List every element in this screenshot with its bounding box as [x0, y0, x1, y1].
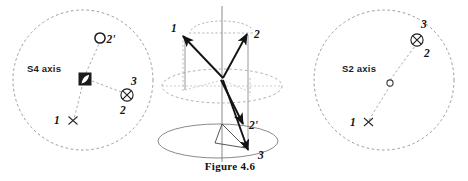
vector-arrows	[183, 34, 248, 150]
right-stereogram-svg: S2 axis 3 2 1	[300, 0, 468, 160]
s4-axis-label: S4 axis	[27, 63, 61, 74]
vector-label-1: 1	[171, 22, 177, 34]
figure-caption: Figure 4.6	[0, 160, 468, 172]
tri-leg-left	[215, 124, 222, 143]
connector-to-3	[92, 81, 124, 93]
s2-axis-label: S2 axis	[342, 63, 376, 74]
left-stereogram-panel: S4 axis 2' 3 2 1	[0, 0, 160, 160]
cross-x-marker-1	[364, 118, 373, 126]
point-label-3: 3	[130, 75, 137, 87]
vector-label-2prime: 2'	[248, 119, 258, 131]
projection-circle	[314, 10, 454, 150]
point-label-1: 1	[54, 114, 60, 126]
vector-label-2: 2	[253, 28, 260, 40]
below-plane-marker-2-3	[121, 89, 133, 101]
point-label-3: 3	[420, 18, 427, 30]
above-plane-marker-2prime	[95, 33, 105, 43]
connector-to-1	[74, 87, 82, 119]
s2-axis-symbol	[387, 80, 393, 86]
s4-axis-symbol	[79, 73, 92, 86]
point-label-2prime: 2'	[106, 33, 116, 45]
figure-caption-text: Figure 4.6	[205, 160, 255, 172]
connector-to-2prime	[86, 44, 99, 73]
marker-2-3	[411, 34, 423, 46]
middle-3d-panel: 1 2 2' 3	[155, 0, 290, 181]
point-label-1: 1	[350, 116, 356, 128]
middle-3d-svg: 1 2 2' 3	[155, 0, 290, 165]
right-stereogram-panel: S2 axis 3 2 1	[300, 0, 468, 160]
construction-vertical-solid	[185, 35, 248, 150]
point-label-2: 2	[423, 47, 430, 59]
vector-3	[223, 80, 248, 150]
figure-container: S4 axis 2' 3 2 1	[0, 0, 468, 181]
guide-a	[185, 80, 222, 90]
point-label-2: 2	[119, 104, 126, 116]
left-stereogram-svg: S4 axis 2' 3 2 1	[0, 0, 160, 160]
vector-2	[223, 34, 247, 78]
cross-x-marker-1	[69, 117, 78, 125]
bottom-construction-triangle	[215, 124, 246, 148]
